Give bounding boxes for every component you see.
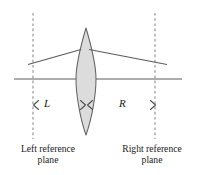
left-reference-plane-caption-line2: plane — [2, 154, 94, 165]
left-reference-plane-caption: Left reference plane — [2, 143, 94, 165]
dimension-arrow-L-left-icon — [34, 101, 39, 110]
distance-label-R: R — [119, 98, 126, 109]
right-reference-plane-caption-line1: Right reference — [122, 143, 181, 154]
distance-label-L: L — [44, 98, 50, 109]
right-reference-plane-caption-line2: plane — [106, 154, 198, 165]
incoming-ray-line — [28, 50, 81, 65]
biconvex-lens-shape — [76, 28, 96, 135]
right-reference-plane-caption: Right reference plane — [106, 143, 198, 165]
optics-lens-diagram: L R Left reference plane Right reference… — [0, 0, 200, 175]
left-reference-plane-caption-line1: Left reference — [21, 143, 75, 154]
